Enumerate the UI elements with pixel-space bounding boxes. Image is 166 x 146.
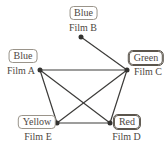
film-label-film-c: Film C bbox=[134, 66, 162, 77]
graph-canvas: Blue Film B Blue Film A Green Film C Yel… bbox=[0, 0, 166, 146]
film-label-film-e: Film E bbox=[24, 131, 52, 142]
film-label-film-d: Film D bbox=[112, 131, 141, 142]
node-dot-film-a bbox=[38, 68, 43, 73]
film-label-film-b: Film B bbox=[69, 22, 97, 33]
node-dot-film-d bbox=[108, 121, 113, 126]
color-tag-film-e: Yellow bbox=[18, 115, 56, 129]
film-label-film-a: Film A bbox=[7, 65, 35, 76]
color-tag-film-b: Blue bbox=[69, 6, 98, 20]
graph-edge bbox=[81, 37, 127, 70]
node-dot-film-b bbox=[79, 35, 84, 40]
color-tag-film-a: Blue bbox=[9, 49, 38, 63]
color-tag-film-c: Green bbox=[129, 51, 163, 65]
node-dot-film-c bbox=[125, 68, 130, 73]
color-tag-film-d: Red bbox=[114, 115, 140, 129]
